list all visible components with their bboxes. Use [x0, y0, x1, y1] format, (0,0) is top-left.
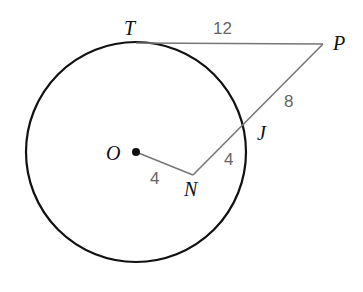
length-jn: 4: [224, 150, 233, 169]
length-on: 4: [150, 169, 159, 188]
geometry-diagram: T P J N O 12 8 4 4: [0, 0, 363, 292]
segment-on: [136, 152, 193, 175]
label-o: O: [106, 142, 120, 164]
label-j: J: [257, 122, 267, 144]
label-n: N: [183, 178, 199, 200]
center-point-o: [132, 148, 140, 156]
label-p: P: [332, 32, 345, 54]
label-t: T: [124, 17, 137, 39]
segment-tp: [136, 43, 323, 44]
segment-pn: [193, 44, 323, 175]
length-pj: 8: [284, 92, 293, 111]
length-tp: 12: [213, 19, 232, 38]
